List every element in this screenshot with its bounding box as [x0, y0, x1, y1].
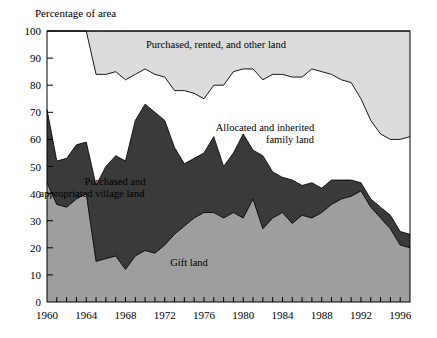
y-tick-label: 70 — [30, 106, 42, 118]
series-annotation: Purchased and — [85, 176, 147, 187]
y-tick-label: 0 — [36, 296, 42, 308]
x-tick-label: 1964 — [75, 309, 98, 321]
y-tick-label: 100 — [25, 25, 42, 37]
y-tick-label: 20 — [30, 242, 42, 254]
area-series-group — [47, 31, 410, 302]
y-tick-label: 90 — [30, 52, 42, 64]
x-tick-label: 1976 — [193, 309, 216, 321]
y-tick-label: 50 — [30, 161, 42, 173]
x-tick-label: 1972 — [154, 309, 176, 321]
y-tick-label: 60 — [30, 133, 42, 145]
y-tick-label: 10 — [30, 269, 42, 281]
series-annotation: Allocated and inherited — [216, 122, 315, 133]
y-tick-label: 30 — [30, 215, 42, 227]
chart-container: Percentage of area 010203040506070809010… — [0, 0, 437, 338]
y-tick-label: 80 — [30, 79, 42, 91]
x-tick-label: 1988 — [311, 309, 334, 321]
x-tick-label: 1968 — [114, 309, 137, 321]
series-annotation: Purchased, rented, and other land — [146, 39, 287, 50]
x-tick-label: 1980 — [232, 309, 255, 321]
series-annotation: family land — [266, 134, 315, 145]
y-axis-title: Percentage of area — [35, 7, 116, 19]
series-annotation: appropriated village land — [40, 188, 146, 199]
x-tick-label: 1996 — [389, 309, 412, 321]
series-annotation: Gift land — [170, 257, 208, 268]
stacked-area-chart: 0102030405060708090100 19601964196819721… — [0, 0, 437, 338]
x-tick-label: 1960 — [36, 309, 59, 321]
x-tick-label: 1992 — [350, 309, 372, 321]
x-tick-label: 1984 — [271, 309, 294, 321]
